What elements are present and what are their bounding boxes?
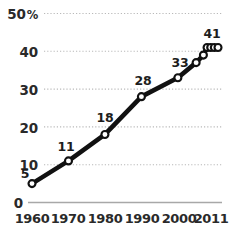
x-tick-2000: 2000 [162,211,197,226]
data-point-marker [101,131,108,138]
x-tick-1960: 1960 [15,211,50,226]
x-tick-2011: 2011 [194,211,229,226]
chart-plot-area [0,0,229,235]
y-tick-30: 30 [4,82,38,98]
x-tick-1970: 1970 [51,211,86,226]
line-chart: 50% 40 30 20 10 0 1960 1970 1980 1990 20… [0,0,229,235]
data-label-2011: 41 [204,26,221,41]
y-tick-40: 40 [4,44,38,60]
data-point-marker [138,93,145,100]
data-label-1980: 18 [97,110,114,125]
data-point-marker [215,44,222,51]
data-point-marker [193,59,200,66]
y-tick-20: 20 [4,120,38,136]
data-point-marker [29,180,36,187]
percent-symbol: % [27,8,38,22]
data-label-1960: 5 [21,166,30,181]
x-tick-1980: 1980 [88,211,123,226]
data-label-1970: 11 [58,139,75,154]
series-line [32,48,218,184]
data-series-layer [29,44,222,187]
data-label-1990: 28 [135,73,152,88]
x-tick-1990: 1990 [125,211,160,226]
data-point-marker [200,52,207,59]
y-tick-0: 0 [4,195,23,211]
data-label-2000: 33 [172,55,189,70]
data-point-marker [174,74,181,81]
y-tick-50: 50% [4,6,38,22]
data-point-marker [65,157,72,164]
